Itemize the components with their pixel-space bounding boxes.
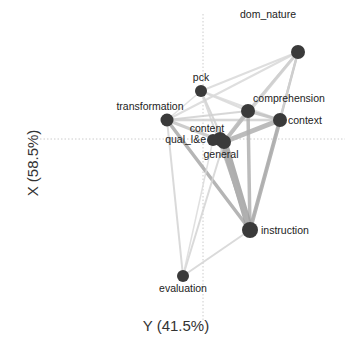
- node-label-qual_le: qual_l&e: [165, 133, 206, 145]
- node-label-evaluation: evaluation: [159, 282, 207, 294]
- node-general: [217, 135, 231, 149]
- node-label-context: context: [288, 114, 322, 126]
- node-label-pck: pck: [193, 71, 210, 83]
- node-evaluation: [177, 270, 189, 282]
- edges-layer: [167, 52, 298, 276]
- edge-instruction-evaluation: [183, 230, 250, 276]
- node-dom_nature: [291, 45, 305, 59]
- node-pck: [195, 85, 207, 97]
- node-context: [273, 113, 287, 127]
- node-qual_le: [207, 134, 219, 146]
- x-axis-title: Y (41.5%): [143, 317, 209, 334]
- network-plot: dom_naturepcktransformationcomprehension…: [0, 0, 352, 348]
- axis-zero-lines: [40, 14, 345, 320]
- y-axis-title: X (58.5%): [24, 130, 41, 197]
- node-label-transformation: transformation: [116, 100, 183, 112]
- node-transformation: [161, 114, 174, 127]
- edge-context-instruction: [250, 120, 280, 230]
- node-label-general: general: [203, 148, 238, 160]
- node-instruction: [242, 222, 258, 238]
- node-comprehension: [241, 104, 255, 118]
- node-label-instruction: instruction: [261, 224, 309, 236]
- edge-dom_nature-transformation: [167, 52, 298, 120]
- node-label-dom_nature: dom_nature: [240, 8, 296, 20]
- node-label-comprehension: comprehension: [253, 92, 325, 104]
